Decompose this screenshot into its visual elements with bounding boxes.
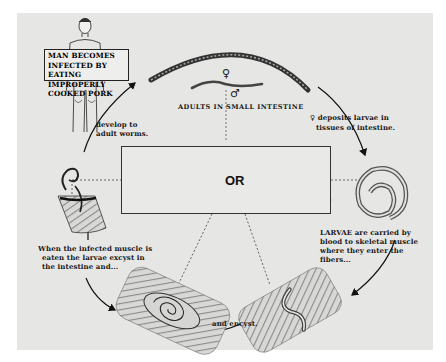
deposits-text-1: deposits larvae in bbox=[318, 113, 389, 122]
develop-label: develop to adult worms. bbox=[96, 120, 148, 138]
larvae-carried-label: LARVAE are carried by blood to skeletal … bbox=[320, 228, 418, 264]
when-line-3: the intestine and... bbox=[38, 262, 152, 271]
encysted-muscle-icon bbox=[111, 263, 234, 359]
deposits-line-1: ♀ deposits larvae in bbox=[310, 113, 395, 123]
encyst-label: and encyst. bbox=[212, 319, 258, 328]
man-infected-line-4: COOKED PORK bbox=[48, 89, 125, 99]
develop-line-1: develop to bbox=[96, 120, 148, 129]
when-infected-label: When the infected muscle is eaten the la… bbox=[38, 244, 152, 271]
man-infected-label-box: MAN BECOMES INFECTED BY EATING IMPROPERL… bbox=[44, 49, 129, 81]
male-symbol-icon: ♂ bbox=[230, 87, 240, 100]
adults-label: ADULTS IN SMALL INTESTINE bbox=[178, 103, 304, 112]
or-label: OR bbox=[225, 173, 245, 188]
man-infected-line-1: MAN BECOMES bbox=[48, 51, 125, 61]
larvae-line-1: LARVAE are carried by bbox=[320, 228, 418, 237]
larvae-line-4: fibers... bbox=[320, 255, 418, 264]
man-infected-line-3: EATING IMPROPERLY bbox=[48, 70, 125, 89]
when-line-2: eaten the larvae excyst in bbox=[38, 253, 152, 262]
man-infected-line-2: INFECTED BY bbox=[48, 61, 125, 71]
female-symbol-icon: ♀ bbox=[222, 67, 230, 80]
arrow-excyst bbox=[86, 278, 115, 310]
deposits-line-2: tissues of intestine. bbox=[310, 123, 395, 132]
when-line-1: When the infected muscle is bbox=[38, 244, 152, 253]
larvae-line-3: where they enter the bbox=[320, 246, 418, 255]
larvae-line-2: blood to skeletal muscle bbox=[320, 237, 418, 246]
intestine-larva-icon bbox=[58, 169, 106, 233]
deposits-label: ♀ deposits larvae in tissues of intestin… bbox=[310, 113, 395, 132]
entering-muscle-icon bbox=[234, 263, 346, 356]
coiled-larva-icon bbox=[358, 168, 406, 218]
develop-line-2: adult worms. bbox=[96, 129, 148, 138]
female-small-icon: ♀ bbox=[310, 114, 315, 122]
